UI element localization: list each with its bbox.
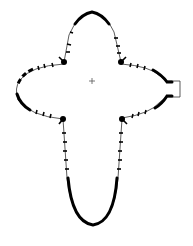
left-lobe	[16, 63, 64, 119]
right-lobe	[121, 63, 180, 118]
top-lobe	[64, 12, 121, 62]
center-crosshair-icon	[89, 78, 95, 84]
shape-diagram	[0, 0, 193, 246]
bottom-lobe	[62, 119, 123, 225]
corner-markers	[59, 57, 127, 124]
